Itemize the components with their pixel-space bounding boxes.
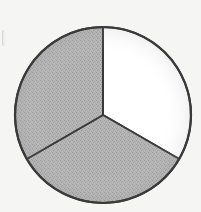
pie-chart-svg [0, 0, 201, 212]
pie-chart-figure [0, 0, 201, 212]
pie-vignette [16, 28, 190, 202]
